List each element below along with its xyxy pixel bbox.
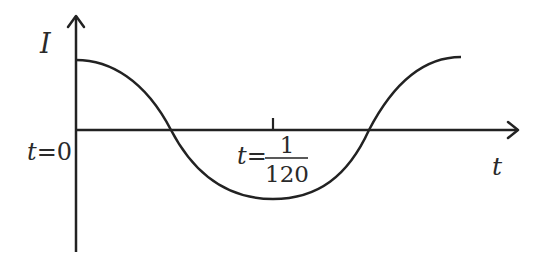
origin-label-value: 0 — [57, 138, 72, 166]
current-waveform-diagram: I t t=0 t= 1 120 — [0, 0, 541, 263]
svg-text:t=0: t=0 — [27, 138, 72, 166]
origin-label: t=0 — [27, 138, 72, 166]
y-axis — [68, 16, 84, 252]
y-axis-label: I — [39, 28, 52, 59]
tick-label-denominator: 120 — [265, 161, 309, 187]
x-axis-label: t — [492, 152, 503, 181]
tick-label-var: t — [237, 142, 247, 170]
tick-label-numerator: 1 — [280, 132, 295, 158]
origin-label-var: t — [27, 138, 37, 166]
tick-label-eq: = — [247, 142, 267, 170]
origin-label-eq: = — [37, 138, 57, 166]
svg-text:t=: t= — [237, 142, 267, 170]
x-axis — [76, 122, 518, 138]
tick-label: t= 1 120 — [237, 132, 309, 187]
